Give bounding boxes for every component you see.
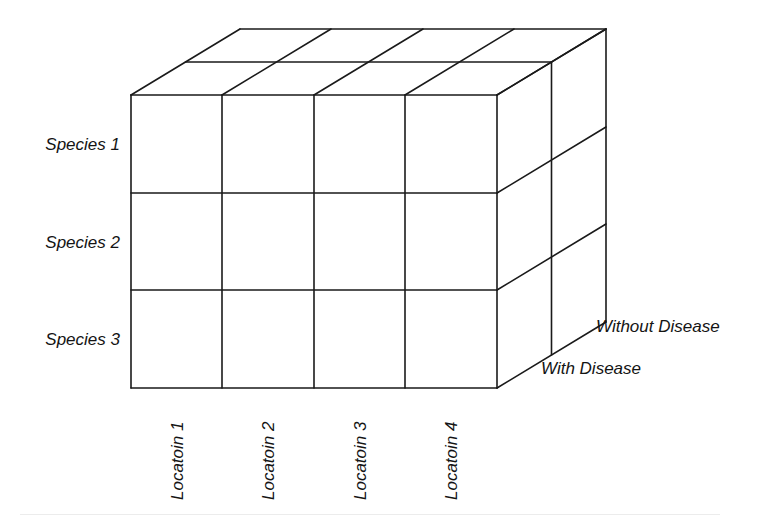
- row-label-species-3: Species 3: [10, 331, 120, 348]
- scan-edge-divider: [20, 514, 720, 515]
- row-label-species-2: Species 2: [10, 234, 120, 251]
- column-label-location-4: Locatoin 4: [443, 422, 460, 500]
- depth-label-with-disease: With Disease: [541, 360, 641, 377]
- depth-label-without-disease: Without Disease: [596, 318, 720, 335]
- column-label-location-2: Locatoin 2: [260, 422, 277, 500]
- cube-grid-lines: [131, 29, 606, 388]
- column-label-location-3: Locatoin 3: [352, 422, 369, 500]
- column-label-location-1: Locatoin 1: [169, 422, 186, 500]
- row-label-species-1: Species 1: [10, 136, 120, 153]
- data-cube-diagram: [0, 0, 769, 527]
